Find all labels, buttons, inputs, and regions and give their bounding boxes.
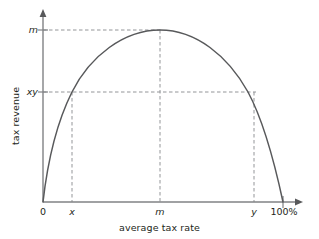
y-tick-label-m: m [14, 24, 38, 35]
y-axis-title: tax revenue [10, 56, 21, 176]
laffer-curve-figure: m xy 0 x m y 100% average tax rate tax r… [0, 0, 319, 239]
plot-canvas [0, 0, 319, 239]
x-tick-label-m: m [150, 206, 170, 217]
x-axis-arrowhead-icon [295, 199, 303, 206]
axes-lines [40, 9, 303, 205]
x-tick-label-origin: 0 [33, 206, 53, 217]
x-axis-title: average tax rate [0, 222, 319, 233]
tax-revenue-curve [43, 30, 283, 202]
y-axis-arrowhead-icon [40, 9, 47, 17]
x-tick-label-y: y [244, 206, 264, 217]
x-tick-label-x: x [62, 206, 82, 217]
x-tick-label-hundred: 100% [265, 206, 303, 217]
guide-lines [43, 30, 256, 202]
